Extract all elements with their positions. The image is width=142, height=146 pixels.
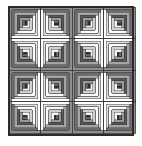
block-slot [72,7,104,39]
block-center-accent [23,21,25,25]
block-slot [9,102,41,134]
quilt-block[interactable] [104,39,136,71]
quilt-block[interactable] [9,70,41,102]
quilt-block[interactable] [104,70,136,102]
block-grid [9,7,135,133]
quilt-block[interactable] [104,102,136,134]
block-center-accent [86,54,90,56]
quilt-block[interactable] [72,39,104,71]
block-slot [9,70,41,102]
quilt-canvas [0,0,142,146]
block-slot [9,39,41,71]
block-center-accent [56,52,58,56]
block-center-accent [117,84,121,86]
block-center-accent [54,21,58,23]
quilt-block[interactable] [9,102,41,134]
quilt-block[interactable] [9,7,41,39]
block-center-accent [23,54,27,56]
block-slot [72,39,104,71]
quilt-block[interactable] [72,70,104,102]
block-center-accent [86,117,90,119]
quilt-block[interactable] [41,39,73,71]
quilt-block[interactable] [72,102,104,134]
block-slot [104,102,136,134]
block-center-accent [23,84,25,88]
block-center-accent [23,117,27,119]
block-slot [41,7,73,39]
block-center-accent [86,84,88,88]
quilt-figure: Log Cabin quilt pattern [0,0,142,146]
block-slot [104,39,136,71]
block-center-accent [56,115,58,119]
block-slot [41,70,73,102]
block-slot [104,70,136,102]
block-slot [72,102,104,134]
quilt-block[interactable] [41,70,73,102]
block-slot [41,39,73,71]
block-slot [9,7,41,39]
block-center-accent [119,52,121,56]
quilt-block[interactable] [41,102,73,134]
block-slot [72,70,104,102]
block-center-accent [119,115,121,119]
quilt-block[interactable] [9,39,41,71]
quilt-block[interactable] [41,7,73,39]
block-center-accent [117,21,121,23]
block-slot [104,7,136,39]
quilt-block[interactable] [104,7,136,39]
block-slot [41,102,73,134]
block-center-accent [54,84,58,86]
block-center-accent [86,21,88,25]
quilt-block[interactable] [72,7,104,39]
